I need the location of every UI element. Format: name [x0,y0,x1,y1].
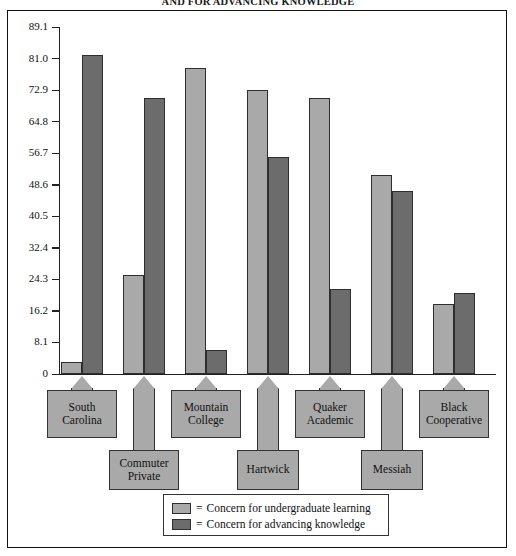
plot-area [59,27,502,374]
bar [433,304,454,374]
legend-equals-sign: = [196,502,203,514]
bar [206,350,227,374]
legend-equals-sign: = [196,518,203,530]
y-tick-label: 48.6 [8,179,48,190]
category-label-box: MountainCollege [171,390,241,438]
category-label-box: QuakerAcademic [295,390,365,438]
bar [144,98,165,374]
bar [61,362,82,374]
bar [309,98,330,374]
category-label-line: Hartwick [247,463,290,477]
legend-label: Concern for undergraduate learning [207,502,371,514]
page-title: AND FOR ADVANCING KNOWLEDGE [0,0,516,8]
category-label-box: BlackCooperative [419,390,489,438]
y-tick-label: 72.9 [8,84,48,95]
category-label-box: Messiah [361,450,423,490]
legend-item: =Concern for advancing knowledge [172,516,380,532]
callout-stem [133,388,155,450]
category-label-line: Commuter [119,457,168,471]
callout-pointer [133,376,155,389]
y-tick-label: 81.0 [8,53,48,64]
y-tick-label: 24.3 [8,273,48,284]
chart-page: AND FOR ADVANCING KNOWLEDGE 89.181.072.9… [0,0,516,556]
y-tick-label: 89.1 [8,21,48,32]
category-label-line: South [62,401,102,415]
bar [454,293,475,374]
y-tick-label: 8.1 [8,336,48,347]
category-label-box: CommuterPrivate [109,450,179,490]
bar [82,55,103,374]
legend-label: Concern for advancing knowledge [207,518,366,530]
bar [185,68,206,374]
callout-pointer [381,376,403,389]
callout-stem [381,388,403,450]
category-label-line: Private [119,470,168,484]
y-tick-label: 0 [8,368,48,379]
category-label-line: Messiah [373,463,411,477]
bar [123,275,144,374]
legend-swatch [172,503,191,514]
category-label-line: Academic [307,414,354,428]
legend-swatch [172,519,191,530]
category-label-line: Carolina [62,414,102,428]
legend: =Concern for undergraduate learning=Conc… [163,494,389,536]
category-label-line: Quaker [307,401,354,415]
bar [392,191,413,374]
bar [247,90,268,374]
bar [268,157,289,374]
category-label-line: Cooperative [426,414,482,428]
category-label-line: Mountain [184,401,229,415]
category-label-line: Black [426,401,482,415]
category-label-box: Hartwick [237,450,299,490]
y-tick-label: 64.8 [8,116,48,127]
y-tick-label: 32.4 [8,242,48,253]
callout-pointer [257,376,279,389]
y-tick-label: 56.7 [8,147,48,158]
legend-item: =Concern for undergraduate learning [172,500,380,516]
category-label-line: College [184,414,229,428]
y-tick-label: 16.2 [8,305,48,316]
bar [330,289,351,374]
category-label-box: SouthCarolina [47,390,117,438]
bar [371,175,392,374]
callout-stem [257,388,279,450]
y-tick-label: 40.5 [8,210,48,221]
